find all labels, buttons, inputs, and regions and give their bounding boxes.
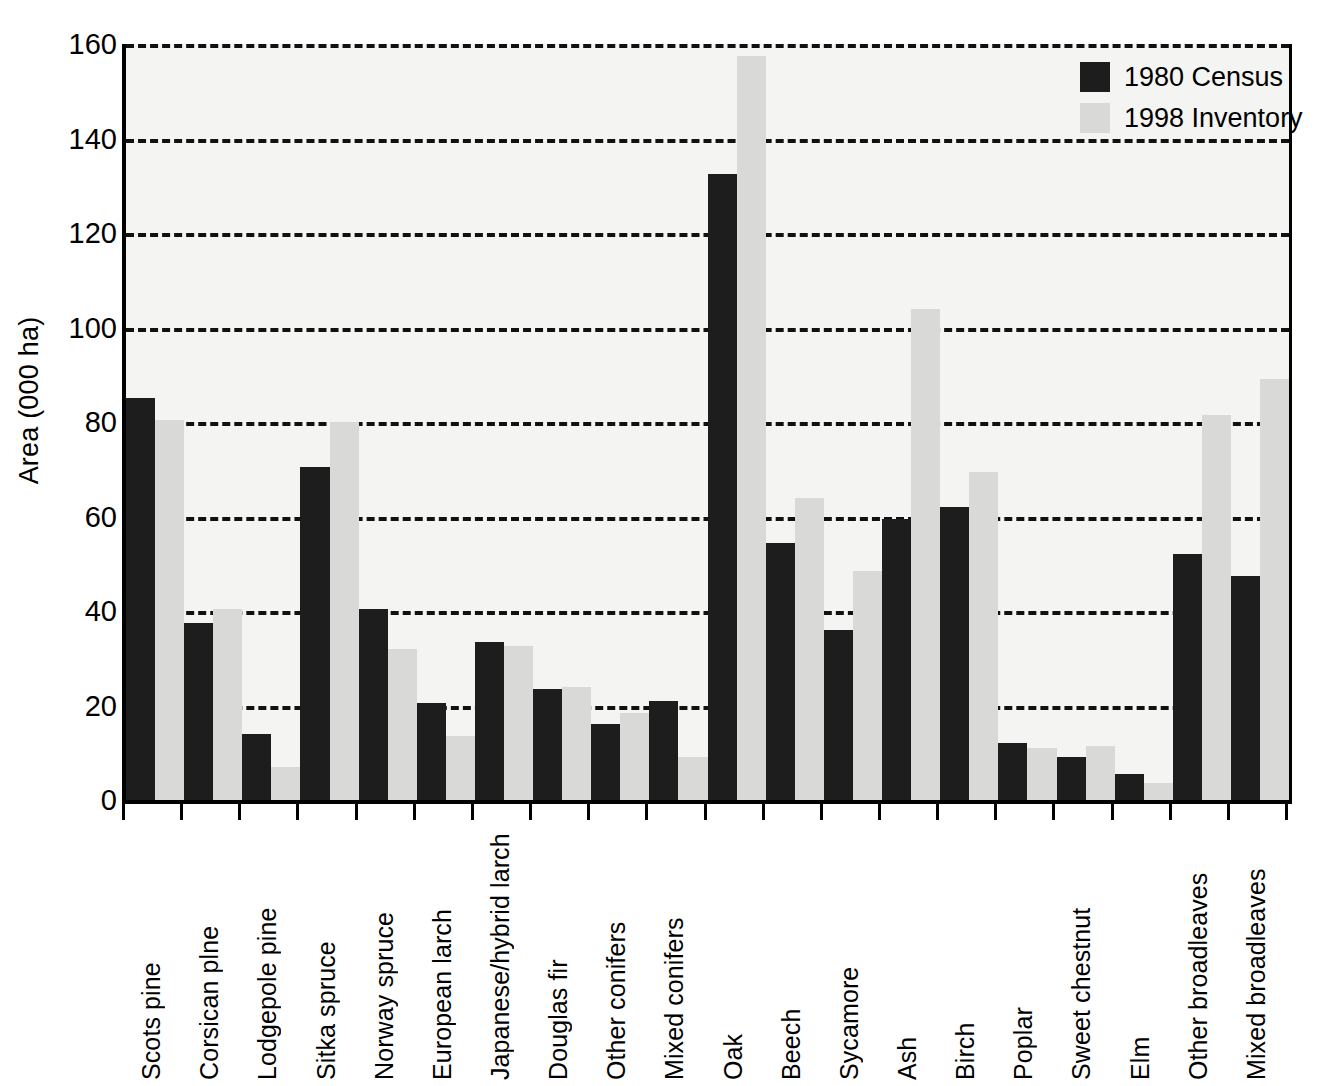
bar[interactable] bbox=[591, 724, 620, 800]
bar[interactable] bbox=[300, 467, 329, 800]
x-axis-category-label: Elm bbox=[1127, 820, 1153, 1080]
x-axis-category-label: Douglas fir bbox=[545, 820, 571, 1080]
bar[interactable] bbox=[737, 56, 766, 800]
legend-item: 1998 Inventory bbox=[1080, 103, 1303, 133]
bar[interactable] bbox=[1260, 379, 1289, 800]
bar[interactable] bbox=[824, 630, 853, 800]
bar-group bbox=[998, 44, 1056, 800]
x-axis-category-label: Scots pine bbox=[138, 820, 164, 1080]
bar[interactable] bbox=[155, 420, 184, 800]
x-axis-tick bbox=[704, 804, 707, 820]
x-axis-category-label: Ash bbox=[894, 820, 920, 1080]
y-axis-tick-label: 160 bbox=[69, 30, 117, 59]
bar[interactable] bbox=[359, 609, 388, 800]
y-axis-tick-label: 20 bbox=[85, 691, 117, 720]
bar[interactable] bbox=[1144, 783, 1173, 800]
bar-group bbox=[475, 44, 533, 800]
x-axis-tick bbox=[762, 804, 765, 820]
x-axis-category-label: Lodgepole pine bbox=[254, 820, 280, 1080]
bar-group bbox=[184, 44, 242, 800]
bar[interactable] bbox=[1202, 415, 1231, 800]
bar[interactable] bbox=[1086, 746, 1115, 800]
plot-area bbox=[122, 44, 1292, 804]
x-axis-tick bbox=[1111, 804, 1114, 820]
x-axis-category-labels: Scots pineCorsican plneLodgepole pineSit… bbox=[122, 820, 1285, 1086]
bar[interactable] bbox=[969, 472, 998, 800]
bar[interactable] bbox=[678, 757, 707, 800]
x-axis-category-label: Mixed broadleaves bbox=[1243, 820, 1269, 1080]
y-axis-tick-label: 0 bbox=[101, 786, 117, 815]
bar[interactable] bbox=[562, 687, 591, 800]
bar-chart-figure: Area (000 ha) 020406080100120140160 Scot… bbox=[0, 0, 1327, 1086]
bar-group bbox=[1173, 44, 1231, 800]
bar[interactable] bbox=[1027, 748, 1056, 800]
x-axis-category-label: Birch bbox=[952, 820, 978, 1080]
x-axis-tick bbox=[820, 804, 823, 820]
bar[interactable] bbox=[533, 689, 562, 800]
bar-group bbox=[940, 44, 998, 800]
bar[interactable] bbox=[1057, 757, 1086, 800]
x-axis-tick bbox=[1227, 804, 1230, 820]
bar-group bbox=[824, 44, 882, 800]
x-axis-tick bbox=[413, 804, 416, 820]
bar-group bbox=[417, 44, 475, 800]
bar[interactable] bbox=[126, 398, 155, 800]
bar[interactable] bbox=[504, 646, 533, 800]
x-axis-category-label: Sweet chestnut bbox=[1068, 820, 1094, 1080]
x-axis-category-label: Oak bbox=[720, 820, 746, 1080]
x-axis-tick bbox=[1052, 804, 1055, 820]
bar[interactable] bbox=[795, 498, 824, 800]
bar[interactable] bbox=[417, 703, 446, 800]
x-axis-tick bbox=[529, 804, 532, 820]
bar-groups bbox=[126, 44, 1289, 800]
series-1-swatch-icon bbox=[1080, 62, 1110, 92]
y-axis-title-text: Area (000 ha) bbox=[15, 316, 46, 484]
bar[interactable] bbox=[998, 743, 1027, 800]
y-axis-tick-labels: 020406080100120140160 bbox=[55, 0, 117, 810]
bar[interactable] bbox=[649, 701, 678, 800]
x-axis-ticks bbox=[122, 804, 1285, 820]
x-axis-category-label: Corsican plne bbox=[196, 820, 222, 1080]
bar[interactable] bbox=[940, 507, 969, 800]
x-axis-category-label: Other conifers bbox=[603, 820, 629, 1080]
bar-group bbox=[1231, 44, 1289, 800]
bar[interactable] bbox=[882, 519, 911, 800]
bar[interactable] bbox=[475, 642, 504, 800]
x-axis-category-label: Sycamore bbox=[836, 820, 862, 1080]
bar[interactable] bbox=[213, 609, 242, 800]
x-axis-tick bbox=[936, 804, 939, 820]
bar[interactable] bbox=[330, 422, 359, 800]
bar[interactable] bbox=[446, 736, 475, 800]
y-axis-title: Area (000 ha) bbox=[0, 0, 60, 800]
x-axis-tick bbox=[296, 804, 299, 820]
bar[interactable] bbox=[388, 649, 417, 800]
x-axis-category-label: Japanese/hybrid larch bbox=[487, 820, 513, 1080]
legend-item-label: 1980 Census bbox=[1124, 64, 1283, 91]
bar[interactable] bbox=[242, 734, 271, 800]
bar[interactable] bbox=[271, 767, 300, 800]
bar[interactable] bbox=[620, 713, 649, 800]
bar-group bbox=[649, 44, 707, 800]
bar-group bbox=[300, 44, 358, 800]
bar[interactable] bbox=[766, 543, 795, 801]
bar-group bbox=[242, 44, 300, 800]
bar[interactable] bbox=[184, 623, 213, 800]
x-axis-tick bbox=[471, 804, 474, 820]
bar-group bbox=[882, 44, 940, 800]
bar[interactable] bbox=[853, 571, 882, 800]
bar[interactable] bbox=[708, 174, 737, 800]
x-axis-category-label: Mixed conifers bbox=[661, 820, 687, 1080]
bar[interactable] bbox=[1115, 774, 1144, 800]
bar-group bbox=[591, 44, 649, 800]
y-axis-tick-label: 100 bbox=[69, 313, 117, 342]
x-axis-tick bbox=[180, 804, 183, 820]
bar[interactable] bbox=[1173, 554, 1202, 800]
x-axis-tick bbox=[587, 804, 590, 820]
bar[interactable] bbox=[1231, 576, 1260, 800]
bar[interactable] bbox=[911, 309, 940, 800]
chart-legend: 1980 Census 1998 Inventory bbox=[1080, 62, 1303, 133]
y-axis-tick-label: 120 bbox=[69, 219, 117, 248]
y-axis-tick-label: 140 bbox=[69, 124, 117, 153]
x-axis-tick bbox=[878, 804, 881, 820]
x-axis-tick bbox=[122, 804, 125, 820]
